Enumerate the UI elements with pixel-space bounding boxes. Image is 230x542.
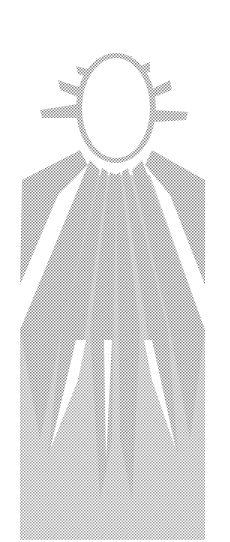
- sun-icon: [0, 0, 230, 542]
- sun-disc: [82, 58, 150, 158]
- sun-illustration: [0, 0, 230, 542]
